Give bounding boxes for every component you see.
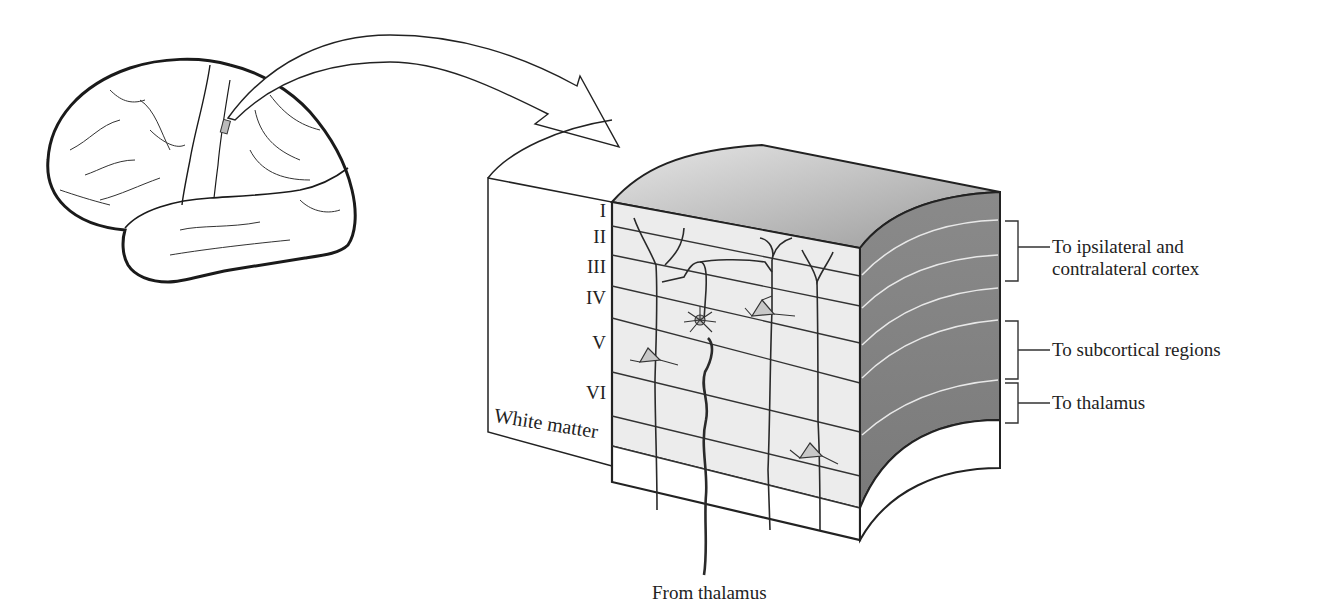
output-label-cortex-line2: contralateral cortex <box>1052 258 1199 280</box>
layer-label-2: II <box>546 226 606 248</box>
output-label-cortex: To ipsilateral and contralateral cortex <box>1052 236 1199 280</box>
layer-label-4: IV <box>546 287 606 309</box>
input-label-thalamus: From thalamus <box>652 582 767 604</box>
brain-illustration <box>48 59 355 282</box>
layer-label-5: V <box>546 332 606 354</box>
output-label-cortex-line1: To ipsilateral and <box>1052 236 1199 258</box>
output-label-subcortical: To subcortical regions <box>1052 339 1221 361</box>
output-label-thalamus: To thalamus <box>1052 392 1145 414</box>
layer-label-6: VI <box>546 382 606 404</box>
output-brackets <box>1005 221 1050 423</box>
layer-label-3: III <box>546 256 606 278</box>
layer-label-1: I <box>546 200 606 222</box>
cortex-diagram <box>0 0 1317 613</box>
